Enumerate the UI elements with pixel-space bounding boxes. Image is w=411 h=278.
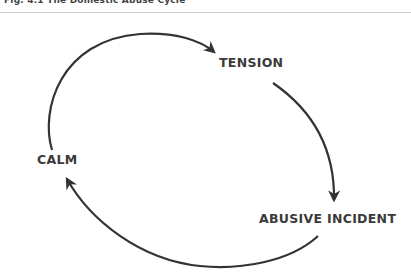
cycle-arrows [0,0,411,278]
stage-abusive-incident-label: ABUSIVE INCIDENT [259,211,396,226]
arrow-calm-to-tension [49,34,214,150]
stage-tension-label: TENSION [219,55,283,70]
arrow-tension-to-abusive-incident [273,83,334,200]
stage-calm-label: CALM [37,152,77,167]
